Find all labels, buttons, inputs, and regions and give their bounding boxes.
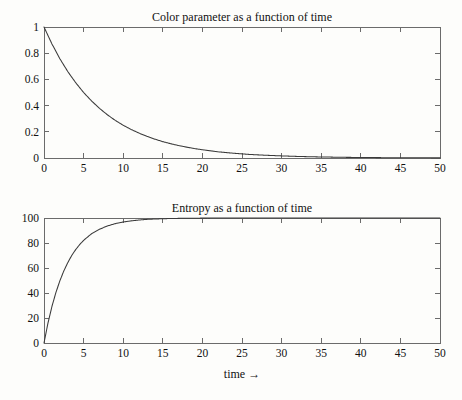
- x-ticklabel-top-0: 0: [41, 162, 47, 174]
- x-ticklabel-bottom-6: 30: [276, 347, 288, 359]
- x-ticklabel-top-8: 40: [355, 162, 367, 174]
- y-ticklabel-bottom-2: 40: [28, 287, 40, 299]
- x-ticklabel-top-10: 50: [434, 162, 446, 174]
- x-ticks-top: [44, 27, 440, 158]
- y-ticklabel-bottom-3: 60: [28, 262, 40, 274]
- data-curve-color-parameter: [44, 27, 440, 158]
- panel-entropy: Entropy as a function of time: [22, 201, 446, 381]
- x-ticklabel-top-9: 45: [395, 162, 407, 174]
- x-ticks-bottom: [44, 218, 440, 343]
- plot-box-bottom: [44, 218, 440, 343]
- x-axis-label: time →: [224, 367, 260, 381]
- x-ticklabel-bottom-8: 40: [355, 347, 367, 359]
- x-ticklabel-bottom-9: 45: [395, 347, 407, 359]
- y-ticklabel-top-0: 0: [33, 152, 39, 164]
- y-ticklabel-bottom-0: 0: [33, 337, 39, 349]
- x-ticklabel-bottom-1: 5: [81, 347, 87, 359]
- x-ticklabel-top-3: 15: [157, 162, 169, 174]
- x-ticklabel-top-4: 20: [197, 162, 209, 174]
- x-ticklabel-bottom-3: 15: [157, 347, 169, 359]
- x-ticklabel-bottom-10: 50: [434, 347, 446, 359]
- x-ticklabel-top-5: 25: [236, 162, 248, 174]
- panel-color-parameter: Color parameter as a function of time: [25, 10, 446, 174]
- y-ticks-top: [44, 27, 440, 158]
- y-ticklabels-top: 0 0.2 0.4 0.6 0.8 1: [25, 21, 40, 164]
- x-ticklabel-top-1: 5: [81, 162, 87, 174]
- y-ticklabel-top-2: 0.4: [25, 100, 40, 112]
- x-ticklabel-bottom-0: 0: [41, 347, 47, 359]
- x-ticklabel-top-2: 10: [117, 162, 129, 174]
- x-ticklabel-bottom-5: 25: [236, 347, 248, 359]
- y-ticklabel-top-3: 0.6: [25, 73, 40, 85]
- chart-title-bottom: Entropy as a function of time: [172, 201, 312, 215]
- x-ticklabel-top-6: 30: [276, 162, 288, 174]
- y-ticklabel-top-1: 0.2: [25, 126, 40, 138]
- y-ticklabel-bottom-5: 100: [22, 212, 40, 224]
- data-curve-entropy: [44, 218, 440, 343]
- figure-container: Color parameter as a function of time: [0, 0, 462, 400]
- y-ticklabels-bottom: 0 20 40 60 80 100: [22, 212, 40, 349]
- y-ticklabel-top-5: 1: [33, 21, 39, 33]
- x-ticklabel-bottom-2: 10: [117, 347, 129, 359]
- x-ticklabels-top: 0 5 10 15 20 25 30 35 40 45 50: [41, 162, 446, 174]
- y-ticklabel-bottom-4: 80: [28, 237, 40, 249]
- y-ticklabel-bottom-1: 20: [28, 312, 40, 324]
- y-ticklabel-top-4: 0.8: [25, 47, 40, 59]
- chart-title-top: Color parameter as a function of time: [152, 10, 332, 24]
- x-ticklabels-bottom: 0 5 10 15 20 25 30 35 40 45 50: [41, 347, 446, 359]
- x-ticklabel-top-7: 35: [315, 162, 327, 174]
- plot-box-top: [44, 27, 440, 158]
- x-ticklabel-bottom-4: 20: [197, 347, 209, 359]
- y-ticks-bottom: [44, 218, 440, 343]
- two-panel-line-chart: Color parameter as a function of time: [0, 0, 462, 400]
- x-ticklabel-bottom-7: 35: [315, 347, 327, 359]
